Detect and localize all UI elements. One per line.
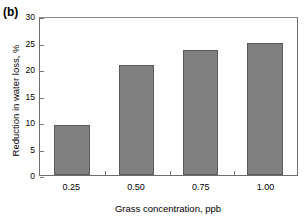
figure-panel-b: (b) Reduction in water loss, % Grass con… — [0, 0, 306, 221]
x-tick-mark — [105, 171, 106, 175]
bar[interactable] — [119, 65, 154, 175]
bar-slot — [40, 18, 104, 175]
y-tick-mark — [40, 71, 44, 72]
x-tick-label: 0.50 — [106, 182, 166, 192]
y-tick-mark — [40, 98, 44, 99]
y-axis-title: Reduction in water loss, % — [10, 21, 21, 181]
panel-label: (b) — [3, 5, 18, 19]
plot-inner — [40, 18, 297, 175]
y-tick-mark — [40, 151, 44, 152]
plot-area — [39, 17, 298, 176]
x-tick-mark — [234, 171, 235, 175]
y-tick-mark — [40, 124, 44, 125]
bar-slot — [233, 18, 297, 175]
x-axis-title: Grass concentration, ppb — [37, 203, 299, 214]
bar-slot — [104, 18, 168, 175]
x-tick-label: 1.00 — [236, 182, 296, 192]
bar[interactable] — [183, 50, 218, 175]
y-tick-mark — [40, 18, 44, 19]
x-tick-label: 0.25 — [41, 182, 101, 192]
y-tick-mark — [40, 177, 44, 178]
bar-group — [40, 18, 297, 175]
y-tick-mark — [40, 45, 44, 46]
bar[interactable] — [54, 125, 89, 175]
bar-slot — [169, 18, 233, 175]
x-tick-label: 0.75 — [171, 182, 231, 192]
bar[interactable] — [247, 43, 282, 175]
x-tick-mark — [170, 171, 171, 175]
